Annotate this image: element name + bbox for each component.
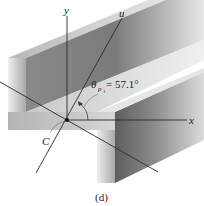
top-flange-front-face <box>8 58 26 112</box>
theta-value: = 57.1° <box>106 78 139 90</box>
theta-subscript: p <box>97 85 102 93</box>
centroid-point <box>65 118 69 122</box>
u-axis-label: u <box>119 7 125 19</box>
y-axis-label: y <box>63 4 69 16</box>
bottom-flange-front-face <box>97 130 115 183</box>
beam-diagram: y u x C θ p 1 = 57.1° (d) <box>0 0 204 206</box>
x-axis-label: x <box>188 114 194 126</box>
centroid-label: C <box>42 135 50 147</box>
theta-symbol: θ <box>91 78 97 90</box>
figure-caption: (d) <box>95 191 108 204</box>
